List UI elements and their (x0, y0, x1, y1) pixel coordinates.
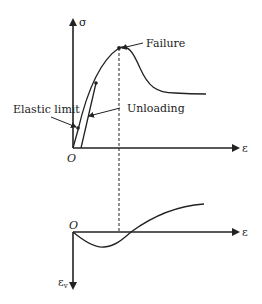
lower-plot: O ε εv (58, 204, 248, 290)
unloading-label: Unloading (127, 102, 185, 115)
ev-subscript: v (63, 282, 68, 290)
volumetric-strain-label: εv (58, 276, 68, 290)
upper-plot: σ ε O Elastic limit Unloading Failure (13, 16, 248, 232)
failure-label: Failure (146, 37, 185, 50)
sigma-label: σ (79, 16, 87, 29)
failure-arrow (122, 43, 143, 48)
epsilon-label-lower: ε (242, 226, 248, 239)
origin-label-lower: O (69, 219, 78, 232)
epsilon-label-upper: ε (242, 142, 248, 155)
stress-strain-diagram: σ ε O Elastic limit Unloading Failure O … (0, 0, 262, 304)
elastic-limit-label: Elastic limit (13, 103, 80, 116)
origin-label-upper: O (67, 152, 76, 165)
elastic-limit-point (76, 126, 80, 130)
unloading-arrow (89, 108, 120, 116)
unloading-start-point (94, 81, 98, 85)
volumetric-strain-curve (73, 204, 204, 247)
